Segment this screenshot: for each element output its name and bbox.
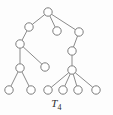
tree-node-leaf-left-b <box>27 86 35 94</box>
tree-edge <box>11 72 18 86</box>
tree-edge <box>73 36 77 47</box>
tree-figure: T4 <box>0 0 113 115</box>
tree-node-leaf-right-b <box>59 86 67 94</box>
figure-label-subscript: 4 <box>58 103 62 112</box>
edge-layer <box>11 14 93 87</box>
tree-node-leaf-right-a <box>44 86 52 94</box>
tree-node-leaf-right-d <box>92 86 100 94</box>
tree-node-center-leaf <box>41 63 49 71</box>
tree-node-left-fork <box>16 64 24 72</box>
tree-edge <box>32 15 44 25</box>
tree-edge <box>22 72 29 86</box>
tree-node-right-hub <box>68 66 76 74</box>
tree-edge <box>22 31 27 41</box>
tree-edge <box>51 73 69 88</box>
tree-edge <box>23 47 42 64</box>
tree-node-leaf-right-c <box>74 86 82 94</box>
tree-edge <box>50 16 55 27</box>
tree-node-root <box>44 8 52 16</box>
tree-node-upper-right <box>75 28 83 36</box>
tree-edge <box>75 73 93 88</box>
tree-node-leaf-left-a <box>5 86 13 94</box>
figure-label: T4 <box>0 97 113 112</box>
tree-node-left-mid <box>16 40 24 48</box>
tree-edge <box>73 74 77 86</box>
tree-node-upper-left <box>25 23 33 31</box>
tree-node-right-mid <box>68 47 76 55</box>
tree-node-center-child <box>53 27 61 35</box>
